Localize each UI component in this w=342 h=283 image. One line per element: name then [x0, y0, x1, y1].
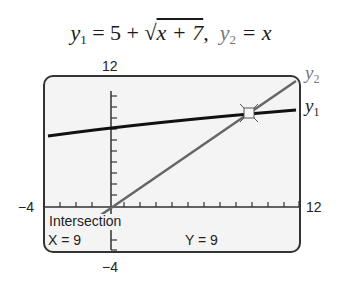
xmax-label: 12 [306, 199, 322, 215]
y1-curve-label: y1 [303, 95, 319, 119]
intersection-heading: Intersection [49, 213, 121, 229]
y2-curve-label: y2 [303, 62, 319, 86]
ymax-label: 12 [102, 58, 118, 74]
graphing-calculator-plot: 12 −4 −4 12 Intersection X = 9 Y = 9 y2 … [0, 0, 342, 283]
ymin-label: −4 [102, 259, 118, 275]
readout-x: X = 9 [48, 232, 81, 248]
xmin-label: −4 [18, 199, 34, 215]
readout-y: Y = 9 [185, 232, 218, 248]
